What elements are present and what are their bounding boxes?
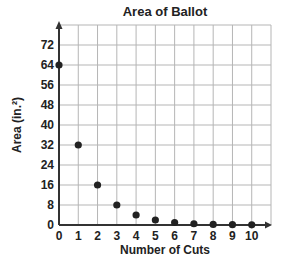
y-tick-label: 56 [41,78,55,92]
y-tick-label: 72 [41,38,55,52]
y-tick-label: 32 [41,138,55,152]
y-tick-label: 0 [47,218,54,232]
data-point [229,221,236,228]
data-point [75,141,82,148]
x-tick-labels: 012345678910 [56,229,259,243]
x-tick-label: 10 [245,229,259,243]
y-tick-label: 48 [41,98,55,112]
grid [59,25,271,225]
data-point [132,211,139,218]
chart-title: Area of Ballot [123,4,208,19]
x-tick-label: 2 [94,229,101,243]
data-point [152,216,159,223]
x-tick-label: 3 [113,229,120,243]
data-point [190,220,197,227]
y-tick-label: 64 [41,58,55,72]
y-tick-label: 16 [41,178,55,192]
y-tick-label: 40 [41,118,55,132]
x-tick-label: 6 [171,229,178,243]
y-tick-labels: 081624324048566472 [41,38,55,232]
data-point [113,201,120,208]
scatter-chart: Area of Ballot 012345678910 081624324048… [0,0,287,276]
x-tick-label: 5 [152,229,159,243]
x-tick-label: 1 [75,229,82,243]
x-tick-label: 4 [133,229,140,243]
data-point [94,181,101,188]
x-tick-label: 0 [56,229,63,243]
y-axis-label: Area (in.²) [10,97,24,153]
y-tick-label: 8 [47,198,54,212]
data-point [210,221,217,228]
data-point [171,219,178,226]
x-tick-label: 7 [191,229,198,243]
x-axis-label: Number of Cuts [120,243,210,257]
x-tick-label: 9 [229,229,236,243]
y-tick-label: 24 [41,158,55,172]
data-point [55,61,62,68]
data-point [248,221,255,228]
x-tick-label: 8 [210,229,217,243]
